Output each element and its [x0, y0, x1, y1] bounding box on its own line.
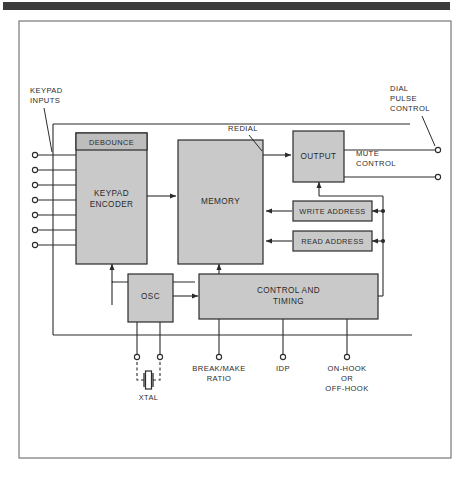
hook-label-line3: OFF-HOOK — [325, 384, 368, 393]
top-rule-bar — [3, 2, 450, 10]
control-timing-label-line1: CONTROL AND — [257, 286, 320, 295]
dial-pulse-label-line3: CONTROL — [390, 104, 430, 113]
idp-label: IDP — [276, 364, 290, 373]
junction-write-addr — [381, 209, 385, 213]
block-keypad-encoder[interactable] — [76, 133, 147, 264]
figure-canvas: DEBOUNCE KEYPAD ENCODER MEMORY OUTPUT WR… — [0, 0, 469, 482]
break-make-label-line2: RATIO — [207, 374, 232, 383]
control-timing-label-line2: TIMING — [273, 297, 304, 306]
terminal-keypad-6 — [32, 227, 37, 232]
break-make-label-line1: BREAK/MAKE — [192, 364, 245, 373]
dial-pulse-label-line1: DIAL — [390, 84, 408, 93]
terminal-mute-control — [435, 174, 440, 179]
output-label: OUTPUT — [300, 152, 336, 161]
xtal-label: XTAL — [139, 393, 159, 402]
block-diagram: DEBOUNCE KEYPAD ENCODER MEMORY OUTPUT WR… — [0, 0, 469, 482]
debounce-label: DEBOUNCE — [89, 138, 134, 147]
terminal-keypad-3 — [32, 182, 37, 187]
terminal-dial-pulse-control — [435, 147, 440, 152]
junction-read-addr — [381, 239, 385, 243]
read-address-label: READ ADDRESS — [301, 237, 364, 246]
terminal-idp — [280, 354, 285, 359]
dial-pulse-label-line2: PULSE — [390, 94, 417, 103]
terminal-keypad-2 — [32, 167, 37, 172]
redial-label: REDIAL — [228, 124, 258, 133]
mute-label-line1: MUTE — [356, 149, 379, 158]
terminal-keypad-5 — [32, 212, 37, 217]
keypad-inputs-label-line2: INPUTS — [30, 96, 60, 105]
terminal-break-make-ratio — [216, 354, 221, 359]
terminal-keypad-4 — [32, 197, 37, 202]
memory-label: MEMORY — [201, 197, 240, 206]
terminal-on-off-hook — [344, 354, 349, 359]
hook-label-line1: ON-HOOK — [327, 364, 366, 373]
terminal-keypad-1 — [32, 152, 37, 157]
osc-label: OSC — [141, 292, 160, 301]
terminal-xtal-1 — [134, 354, 139, 359]
hook-label-line2: OR — [341, 374, 353, 383]
keypad-encoder-label-line2: ENCODER — [90, 200, 134, 209]
mute-label-line2: CONTROL — [356, 159, 396, 168]
terminal-xtal-2 — [157, 354, 162, 359]
xtal-body — [146, 371, 152, 389]
terminal-keypad-7 — [32, 242, 37, 247]
keypad-inputs-label-line1: KEYPAD — [30, 86, 63, 95]
write-address-label: WRITE ADDRESS — [299, 207, 365, 216]
keypad-encoder-label-line1: KEYPAD — [94, 189, 129, 198]
